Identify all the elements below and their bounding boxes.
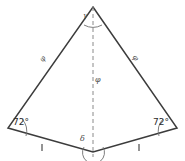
angle-label-bottom-delta: δ — [80, 135, 85, 143]
angle-label-apex-gamma: γ — [83, 12, 87, 20]
geometry-figure: 72° 72° γ δ φ φ φ — [0, 0, 185, 161]
apex-angle-arc — [84, 25, 102, 27]
figure-svg — [0, 0, 185, 161]
angle-label-right: 72° — [153, 118, 169, 127]
diagonal-label-phi: φ — [95, 76, 101, 84]
angle-label-left: 72° — [13, 118, 29, 127]
